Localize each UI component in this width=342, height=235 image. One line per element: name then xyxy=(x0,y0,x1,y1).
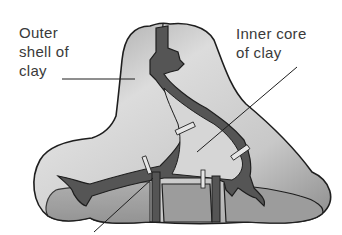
inner-core-label: Inner core of clay xyxy=(236,24,307,62)
sprue-right xyxy=(212,176,220,222)
sprue-left xyxy=(152,172,160,222)
bottom-block-mid xyxy=(162,184,212,222)
outer-shell-label: Outer shell of clay xyxy=(19,23,69,80)
pin-3 xyxy=(201,170,205,188)
